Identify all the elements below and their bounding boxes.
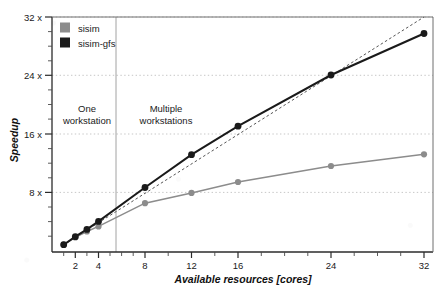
data-point bbox=[235, 123, 242, 130]
x-tick-label-16: 16 bbox=[233, 260, 244, 271]
x-tick-label-24: 24 bbox=[326, 260, 337, 271]
data-point bbox=[235, 179, 241, 185]
y-tick-label-8x: 8 x bbox=[29, 187, 42, 198]
x-axis-title: Available resources [cores] bbox=[173, 273, 312, 285]
legend-swatch-sisim-gfs bbox=[60, 38, 70, 48]
legend-swatch-sisim bbox=[60, 23, 70, 33]
y-tick-label-24x: 24 x bbox=[24, 70, 42, 81]
y-tick-label-32x: 32 x bbox=[24, 12, 42, 23]
x-tick-label-32: 32 bbox=[419, 260, 430, 271]
plot-area bbox=[52, 17, 433, 252]
data-point bbox=[72, 233, 79, 240]
data-point bbox=[95, 218, 102, 225]
y-tick-label-16x: 16 x bbox=[24, 129, 42, 140]
data-point bbox=[142, 184, 149, 191]
annotation-multiple-workstations-line1: Multiple bbox=[150, 103, 183, 114]
x-tick-label-12: 12 bbox=[186, 260, 197, 271]
data-point bbox=[188, 190, 194, 196]
data-point bbox=[84, 226, 91, 233]
annotation-one-workstation-line2: workstation bbox=[62, 115, 111, 126]
x-major-ticks bbox=[75, 252, 424, 258]
annotation-multiple-workstations-line2: workstations bbox=[139, 115, 193, 126]
data-point bbox=[328, 72, 335, 79]
data-point bbox=[421, 151, 427, 157]
legend-label-sisim-gfs: sisim-gfs bbox=[78, 38, 116, 49]
data-point bbox=[142, 200, 148, 206]
legend-label-sisim: sisim bbox=[78, 23, 100, 34]
data-point bbox=[328, 163, 334, 169]
data-point bbox=[188, 151, 195, 158]
speedup-chart: 32 x 24 x 16 x 8 x Speedup 2 4 8 12 16 2… bbox=[0, 0, 446, 289]
x-tick-label-8: 8 bbox=[142, 260, 147, 271]
y-axis-title: Speedup bbox=[8, 117, 20, 162]
data-point bbox=[421, 30, 428, 37]
annotation-one-workstation-line1: One bbox=[78, 103, 96, 114]
x-tick-label-2: 2 bbox=[73, 260, 78, 271]
data-point bbox=[60, 241, 67, 248]
x-tick-label-4: 4 bbox=[96, 260, 101, 271]
